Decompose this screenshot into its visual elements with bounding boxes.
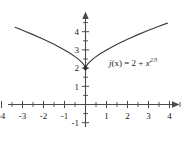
- x-tick-label: -1: [61, 111, 69, 121]
- y-tick-label: 4: [75, 27, 80, 37]
- y-tick-label: 2: [75, 63, 80, 73]
- function-equation-annotation: j(x) = 2 + x2/3: [109, 57, 157, 68]
- x-tick-label: -2: [40, 111, 48, 121]
- x-tick-label: 2: [125, 111, 130, 121]
- y-tick-label: 3: [75, 45, 80, 55]
- graph-figure: -4-3-2-11234 -11234 j(x) = 2 + x2/3: [0, 0, 193, 142]
- x-tick-label: -3: [19, 111, 27, 121]
- y-tick-label: -1: [72, 118, 80, 128]
- x-axis-tick-labels: -4-3-2-11234: [0, 111, 172, 121]
- cusp-point-marker: [83, 66, 87, 70]
- x-tick-label: -4: [0, 111, 6, 121]
- coordinate-plane: -4-3-2-11234 -11234: [0, 0, 193, 142]
- x-tick-label: 3: [146, 111, 151, 121]
- y-axis-arrow-icon: [82, 12, 88, 20]
- equation-exponent: 2/3: [150, 57, 158, 63]
- x-tick-label: 4: [167, 111, 172, 121]
- x-axis-arrow-icon: [172, 101, 180, 107]
- y-tick-label: 1: [75, 82, 80, 92]
- y-axis-tick-labels: -11234: [72, 27, 80, 128]
- x-tick-label: 1: [104, 111, 109, 121]
- equation-body: (x) = 2 +: [112, 58, 146, 68]
